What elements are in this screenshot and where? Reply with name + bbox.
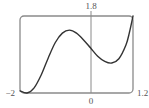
viewing-window-frame xyxy=(20,16,133,93)
x-origin-label: 0 xyxy=(89,96,94,106)
y-max-label: 1.8 xyxy=(85,1,97,11)
function-curve xyxy=(20,16,133,93)
function-plot: 1.8 −2 0 1.2 xyxy=(0,0,149,108)
x-max-label: 1.2 xyxy=(137,88,148,98)
x-min-label: −2 xyxy=(5,88,15,98)
